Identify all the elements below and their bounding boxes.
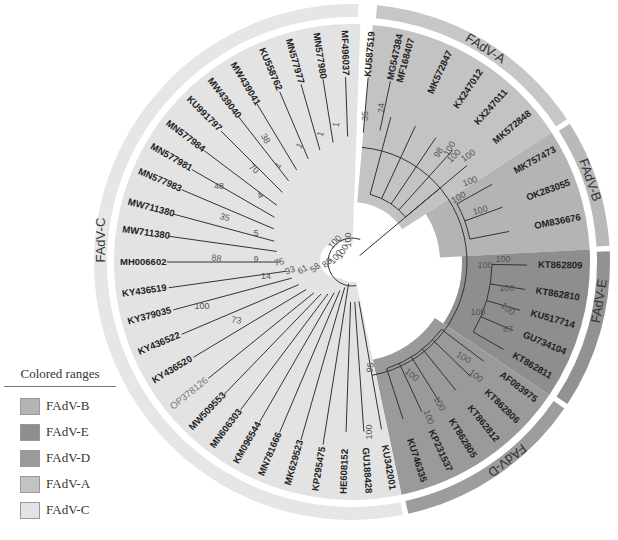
- bootstrap-value: 14: [261, 271, 271, 281]
- bootstrap-value: 24: [376, 103, 386, 113]
- bootstrap-value: 73: [231, 314, 243, 326]
- legend-label: FAdV-D: [46, 450, 90, 466]
- legend-label: FAdV-A: [46, 476, 90, 492]
- legend: Colored ranges FAdV-B FAdV-E FAdV-D FAdV…: [4, 366, 116, 523]
- legend-swatch: [20, 502, 40, 519]
- leaf-label: KT862809: [538, 259, 583, 271]
- branch: [492, 264, 527, 265]
- leaf-label: MH006602: [120, 256, 166, 267]
- bootstrap-value: 9: [253, 254, 258, 264]
- bootstrap-value: 88: [211, 252, 223, 264]
- legend-item-fadv-b: FAdV-B: [4, 393, 116, 419]
- bootstrap-value: 48: [214, 181, 224, 191]
- bootstrap-value: 95: [364, 362, 376, 374]
- leaf-label: MF496037: [339, 30, 352, 76]
- bootstrap-value: 100: [495, 254, 510, 264]
- ring-label-fadv-c: FAdV-C: [93, 218, 108, 263]
- legend-swatch: [20, 424, 40, 441]
- bootstrap-value: 100: [470, 307, 485, 317]
- bootstrap-value: 5: [253, 228, 258, 238]
- bootstrap-value: 87: [503, 324, 513, 334]
- legend-item-fadv-e: FAdV-E: [4, 419, 116, 445]
- bootstrap-value: 35: [360, 111, 370, 121]
- legend-item-fadv-a: FAdV-A: [4, 471, 116, 497]
- leaf-label: HE608152: [337, 449, 350, 494]
- legend-swatch: [20, 476, 40, 493]
- legend-label: FAdV-E: [46, 424, 89, 440]
- legend-item-fadv-c: FAdV-C: [4, 497, 116, 523]
- bootstrap-value: 100: [364, 424, 374, 439]
- legend-swatch: [20, 398, 40, 415]
- bootstrap-value: 100: [477, 260, 492, 270]
- bootstrap-value: 100: [194, 301, 209, 311]
- legend-label: FAdV-B: [46, 398, 89, 414]
- bootstrap-value: 100: [499, 283, 514, 293]
- legend-label: FAdV-C: [46, 502, 89, 518]
- legend-title: Colored ranges: [4, 366, 116, 387]
- legend-item-fadv-d: FAdV-D: [4, 445, 116, 471]
- legend-swatch: [20, 450, 40, 467]
